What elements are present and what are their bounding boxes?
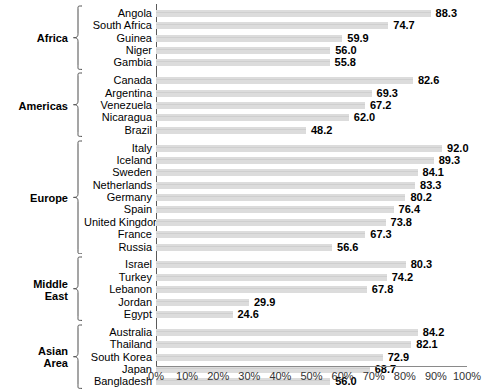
category-label: Lebanon — [84, 284, 156, 295]
bar-highlight-stripe — [156, 343, 411, 344]
bar — [156, 77, 413, 84]
bar — [156, 10, 431, 17]
x-tick-label: 60% — [332, 370, 354, 382]
bar-value-label: 62.0 — [354, 112, 375, 123]
bar-highlight-stripe — [156, 92, 372, 93]
group-brace-icon — [72, 72, 83, 137]
bar-highlight-stripe — [156, 184, 415, 185]
group-label-line: Americas — [0, 100, 68, 112]
bar-value-label: 73.8 — [391, 217, 412, 228]
x-axis-line — [156, 366, 467, 367]
bar-value-label: 82.1 — [416, 339, 437, 350]
category-label: United Kingdom — [84, 217, 156, 228]
bar-value-label: 74.2 — [392, 272, 413, 283]
category-label: Niger — [84, 45, 156, 56]
x-tick-label: 100% — [453, 370, 481, 382]
bar — [156, 299, 249, 306]
bar-value-label: 83.3 — [420, 180, 441, 191]
bar-highlight-stripe — [156, 37, 342, 38]
group-label-line: Middle — [0, 278, 68, 290]
bar-value-label: 67.8 — [372, 284, 393, 295]
group-brace-icon — [72, 256, 83, 321]
bar — [156, 127, 306, 134]
bar-value-label: 76.4 — [399, 204, 420, 215]
category-label: Canada — [84, 75, 156, 86]
category-label: Thailand — [84, 339, 156, 350]
category-label: Brazil — [84, 125, 156, 136]
bar-highlight-stripe — [156, 276, 387, 277]
bar-value-label: 48.2 — [311, 125, 332, 136]
bar-value-label: 88.3 — [436, 8, 457, 19]
bar — [156, 22, 388, 29]
group-label-americas: Americas — [0, 100, 68, 112]
group-label-line: East — [0, 290, 68, 302]
bar-highlight-stripe — [156, 331, 418, 332]
category-label: Argentina — [84, 88, 156, 99]
bar — [156, 274, 387, 281]
bar — [156, 194, 405, 201]
bar-highlight-stripe — [156, 368, 370, 369]
bar-highlight-stripe — [156, 116, 349, 117]
category-label: Guinea — [84, 33, 156, 44]
bar-value-label: 80.2 — [410, 192, 431, 203]
bar — [156, 219, 386, 226]
bar-value-label: 89.3 — [439, 155, 460, 166]
bar-value-label: 24.6 — [238, 309, 259, 320]
bar — [156, 231, 365, 238]
bar-value-label: 84.2 — [423, 327, 444, 338]
bar — [156, 157, 434, 164]
category-label: Bangladesh — [84, 376, 156, 387]
bar — [156, 206, 394, 213]
bar-value-label: 92.0 — [447, 143, 468, 154]
bar — [156, 182, 415, 189]
bar-value-label: 74.7 — [393, 20, 414, 31]
group-label-line: Area — [0, 357, 68, 369]
category-label: Egypt — [84, 309, 156, 320]
bar-value-label: 29.9 — [254, 297, 275, 308]
bar-value-label: 67.2 — [370, 100, 391, 111]
bar — [156, 59, 330, 66]
bar-highlight-stripe — [156, 49, 330, 50]
bar — [156, 341, 411, 348]
x-tick-label: 50% — [300, 370, 322, 382]
bar — [156, 354, 383, 361]
group-brace-icon — [72, 324, 83, 389]
bar-highlight-stripe — [156, 79, 413, 80]
category-label: France — [84, 229, 156, 240]
bar — [156, 244, 332, 251]
bar-highlight-stripe — [156, 159, 434, 160]
category-label: Nicaragua — [84, 112, 156, 123]
x-tick-label: 10% — [176, 370, 198, 382]
x-tick-label: 80% — [394, 370, 416, 382]
bar — [156, 286, 367, 293]
bar-highlight-stripe — [156, 288, 367, 289]
bar-highlight-stripe — [156, 129, 306, 130]
category-label: Italy — [84, 143, 156, 154]
category-label: Australia — [84, 327, 156, 338]
category-label: Israel — [84, 259, 156, 270]
bar — [156, 145, 442, 152]
x-tick-label: 70% — [363, 370, 385, 382]
category-label: South Korea — [84, 352, 156, 363]
bar — [156, 90, 372, 97]
category-label: Venezuela — [84, 100, 156, 111]
category-label: Netherlands — [84, 180, 156, 191]
bar-highlight-stripe — [156, 104, 365, 105]
bar — [156, 261, 406, 268]
category-label: Russia — [84, 242, 156, 253]
bar-highlight-stripe — [156, 147, 442, 148]
bar-value-label: 56.6 — [337, 242, 358, 253]
bar — [156, 114, 349, 121]
category-label-column: AngolaSouth AfricaGuineaNigerGambiaCanad… — [84, 0, 156, 390]
bar-highlight-stripe — [156, 221, 386, 222]
category-label: Jordan — [84, 297, 156, 308]
plot-area: 88.374.759.956.055.882.669.367.262.048.2… — [156, 0, 467, 366]
bar — [156, 311, 233, 318]
bar — [156, 169, 418, 176]
category-label: Germany — [84, 192, 156, 203]
x-tick-label: 0% — [148, 370, 164, 382]
category-label: Turkey — [84, 272, 156, 283]
bar-value-label: 59.9 — [347, 33, 368, 44]
bar-highlight-stripe — [156, 196, 405, 197]
bar-value-label: 82.6 — [418, 75, 439, 86]
